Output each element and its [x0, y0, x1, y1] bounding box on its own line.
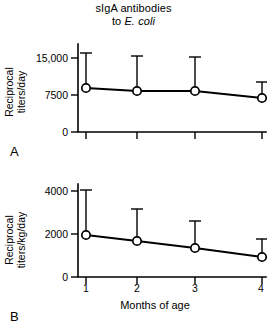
panel-a-plot — [71, 44, 267, 139]
panel-b-series-line — [86, 235, 262, 257]
panel-a-axes — [78, 44, 266, 132]
panel-b-datapoint-2 — [133, 237, 141, 245]
panel-b-plot — [71, 184, 267, 284]
panel-a-datapoint-4 — [258, 94, 266, 102]
panel-b-datapoint-4 — [258, 253, 266, 261]
plot-canvas — [0, 0, 267, 333]
panel-a-datapoint-1 — [82, 84, 90, 92]
panel-a-datapoint-2 — [133, 87, 141, 95]
panel-a-datapoint-3 — [191, 87, 199, 95]
panel-b-axes — [78, 184, 266, 277]
panel-b-datapoint-3 — [191, 244, 199, 252]
panel-b-errorbars — [80, 190, 267, 257]
panel-a-series-line — [86, 88, 262, 98]
panel-b-datapoint-1 — [82, 231, 90, 239]
figure-sIgA-antibodies: sIgA antibodies to E. coli A B Reciproca… — [0, 0, 267, 333]
